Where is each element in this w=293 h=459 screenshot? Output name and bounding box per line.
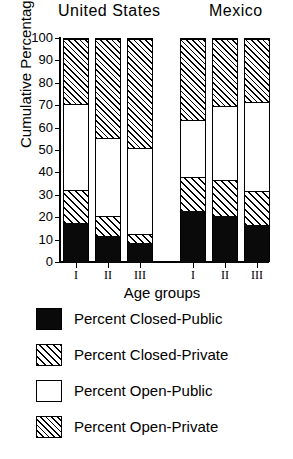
segment-open-public	[181, 120, 205, 177]
y-tick-mark	[55, 240, 60, 241]
legend-swatch-white	[36, 380, 62, 402]
plot-area: 1009080706050403020100 IIIIIIIIIIII	[0, 0, 293, 280]
bar-united-states-iii[interactable]	[127, 38, 153, 262]
y-tick-label-80: 80	[22, 77, 53, 89]
x-axis-title: Age groups	[60, 284, 264, 301]
segment-closed-public	[64, 223, 88, 263]
segment-open-public	[64, 104, 88, 190]
segment-closed-public	[213, 216, 237, 263]
x-tick-label-united-states-ii: II	[95, 268, 121, 283]
y-tick-label-20: 20	[22, 211, 53, 223]
legend-label: Percent Closed-Public	[74, 308, 222, 330]
y-tick-mark	[55, 38, 60, 39]
segment-open-public	[96, 138, 120, 216]
legend-swatch-solid-black	[36, 308, 62, 330]
x-tick-label-mexico-ii: II	[212, 268, 238, 283]
segment-open-private	[245, 39, 269, 102]
y-tick-mark	[55, 60, 60, 61]
y-tick-mark	[55, 150, 60, 151]
segment-open-private	[128, 39, 152, 148]
legend-label: Percent Open-Public	[74, 380, 212, 402]
segment-open-private	[213, 39, 237, 106]
segment-closed-private	[64, 190, 88, 222]
segment-open-private	[64, 39, 88, 104]
bar-united-states-ii[interactable]	[95, 38, 121, 262]
bar-mexico-i[interactable]	[180, 38, 206, 262]
segment-closed-private	[245, 191, 269, 225]
y-tick-label-10: 10	[22, 234, 53, 246]
y-tick-label-70: 70	[22, 99, 53, 111]
segment-open-public	[128, 148, 152, 234]
legend-label: Percent Open-Private	[74, 416, 218, 438]
segment-closed-public	[181, 211, 205, 263]
legend-item-coarse-hatch[interactable]: Percent Closed-Private	[36, 342, 286, 372]
y-tick-mark	[55, 217, 60, 218]
segment-closed-private	[128, 234, 152, 243]
legend-swatch-fine-hatch	[36, 416, 62, 438]
y-tick-mark	[55, 195, 60, 196]
x-tick-label-united-states-iii: III	[127, 268, 153, 283]
y-tick-label-90: 90	[22, 54, 53, 66]
x-tick-label-mexico-i: I	[180, 268, 206, 283]
bar-mexico-iii[interactable]	[244, 38, 270, 262]
legend-label: Percent Closed-Private	[74, 344, 228, 366]
segment-closed-public	[128, 243, 152, 263]
y-tick-label-30: 30	[22, 189, 53, 201]
segment-closed-private	[181, 177, 205, 212]
bar-united-states-i[interactable]	[63, 38, 89, 262]
segment-closed-public	[96, 236, 120, 263]
segment-closed-private	[96, 216, 120, 236]
x-tick-label-united-states-i: I	[63, 268, 89, 283]
bar-mexico-ii[interactable]	[212, 38, 238, 262]
y-tick-label-50: 50	[22, 144, 53, 156]
segment-open-public	[245, 102, 269, 192]
y-tick-label-60: 60	[22, 122, 53, 134]
legend-item-white[interactable]: Percent Open-Public	[36, 378, 286, 408]
segment-closed-public	[245, 225, 269, 263]
y-tick-label-100: 100	[22, 32, 53, 44]
legend-item-fine-hatch[interactable]: Percent Open-Private	[36, 414, 286, 444]
segment-open-private	[181, 39, 205, 120]
y-tick-mark	[55, 105, 60, 106]
y-tick-mark	[55, 83, 60, 84]
y-tick-mark	[55, 128, 60, 129]
segment-open-public	[213, 106, 237, 180]
segment-closed-private	[213, 180, 237, 216]
legend-item-solid-black[interactable]: Percent Closed-Public	[36, 306, 286, 336]
y-tick-mark	[55, 262, 60, 263]
x-tick-label-mexico-iii: III	[244, 268, 270, 283]
y-tick-mark	[55, 172, 60, 173]
y-tick-label-40: 40	[22, 166, 53, 178]
y-tick-label-0: 0	[22, 256, 53, 268]
legend-swatch-coarse-hatch	[36, 344, 62, 366]
segment-open-private	[96, 39, 120, 138]
